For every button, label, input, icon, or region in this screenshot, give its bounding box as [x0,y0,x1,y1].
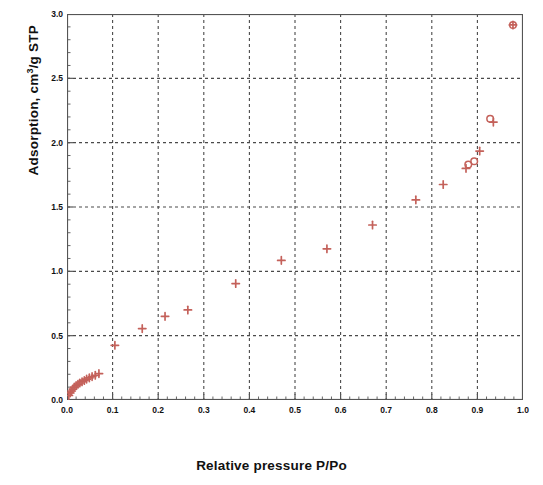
y-tick-label: 1.0 [41,266,63,276]
y-axis-title-tail: /g STP [26,25,41,68]
x-tick-label: 0.9 [471,405,483,415]
y-axis-title-main: Adsorption, cm [26,74,41,176]
data-point-plus [139,325,146,332]
x-tick-label: 0.5 [289,405,301,415]
series-desorption [465,22,516,168]
y-axis-title: Adsorption, cm3/g STP [25,0,42,225]
x-tick-label: 0.1 [107,405,119,415]
data-point-plus [161,313,168,320]
data-point-plus [369,221,376,228]
y-tick-label: 2.0 [41,138,63,148]
adsorption-isotherm-figure: Adsorption, cm3/g STP 0.00.10.20.30.40.5… [0,0,543,485]
y-tick-label: 0.5 [41,331,63,341]
x-tick-label: 0.0 [61,405,73,415]
y-axis-title-superscript: 3 [25,68,35,73]
x-tick-label: 1.0 [517,405,529,415]
x-axis-title: Relative pressure P/Po [0,458,543,473]
data-point-plus [412,196,419,203]
x-tick-label: 0.2 [152,405,164,415]
gridlines [67,14,523,400]
x-tick-label: 0.7 [380,405,392,415]
x-tick-label: 0.6 [335,405,347,415]
x-tick-label: 0.8 [426,405,438,415]
plot-canvas [67,14,523,400]
y-tick-label: 0.0 [41,395,63,405]
data-point-plus [111,342,118,349]
data-point-plus [440,181,447,188]
data-point-plus [278,257,285,264]
plot-area [67,14,523,400]
x-tick-label: 0.4 [243,405,255,415]
data-point-plus [232,280,239,287]
data-point-circle [487,116,494,123]
y-tick-label: 2.5 [41,73,63,83]
data-point-plus [323,245,330,252]
x-tick-label: 0.3 [198,405,210,415]
y-tick-label: 1.5 [41,202,63,212]
y-tick-label: 3.0 [41,9,63,19]
data-point-plus [184,306,191,313]
